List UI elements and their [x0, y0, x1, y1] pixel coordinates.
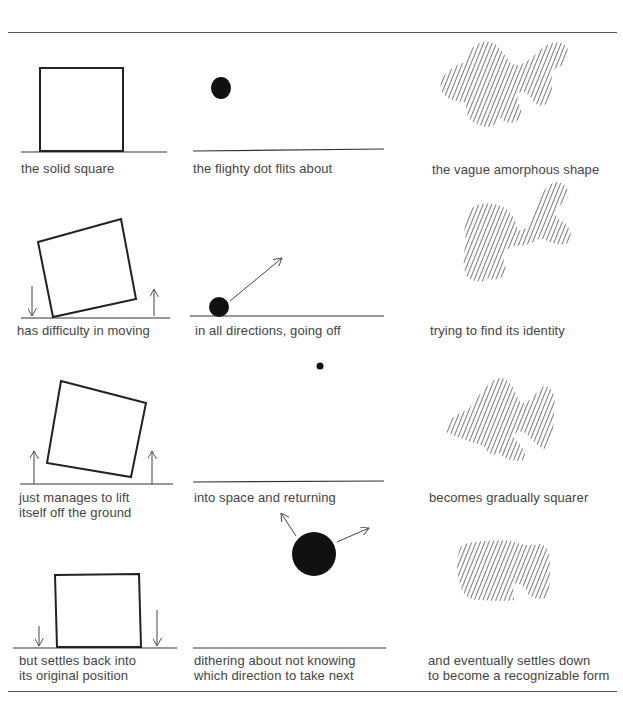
dot-panel-2 [190, 258, 384, 317]
amorphous-shape [457, 540, 550, 601]
ground-line [193, 481, 384, 482]
square-panel-1 [21, 68, 167, 152]
ground-line [193, 149, 384, 151]
caption-square-3: just manages to lift itself off the grou… [19, 490, 131, 520]
direction-arrow-icon [230, 258, 282, 301]
dot-shape [317, 363, 324, 370]
amorphous-panel-1 [441, 42, 569, 127]
dot-panel-3 [193, 363, 384, 483]
caption-shape-2: trying to find its identity [430, 323, 565, 338]
illustration-canvas [0, 0, 623, 704]
amorphous-panel-4 [457, 540, 550, 601]
amorphous-shape [464, 182, 571, 282]
square-panel-2 [21, 219, 170, 318]
square-shape [47, 381, 146, 477]
dot-shape [209, 297, 229, 317]
caption-dot-1: the flighty dot flits about [193, 161, 332, 176]
dot-shape [292, 532, 336, 576]
caption-square-4: but settles back into its original posit… [19, 653, 136, 683]
square-shape [55, 574, 141, 647]
amorphous-shape [441, 42, 569, 127]
amorphous-panel-3 [446, 378, 555, 461]
caption-shape-4: and eventually settles down to become a … [428, 653, 609, 683]
caption-dot-2: in all directions, going off [195, 323, 341, 338]
caption-square-1: the solid square [21, 161, 114, 176]
direction-arrow-icon [337, 528, 369, 542]
square-panel-3 [20, 381, 173, 484]
caption-shape-1: the vague amorphous shape [432, 162, 599, 177]
square-panel-4 [13, 574, 177, 648]
amorphous-shape [446, 378, 555, 461]
dot-panel-4 [193, 513, 386, 648]
dot-panel-1 [193, 77, 384, 151]
direction-arrow-icon [281, 513, 296, 536]
caption-shape-3: becomes gradually squarer [429, 490, 588, 505]
square-shape [40, 68, 123, 151]
caption-square-2: has difficulty in moving [17, 323, 150, 338]
amorphous-panel-2 [464, 182, 571, 282]
caption-dot-3: into space and returning [194, 490, 336, 505]
caption-dot-4: dithering about not knowing which direct… [194, 653, 356, 683]
square-shape [38, 219, 136, 317]
dot-shape [211, 77, 231, 99]
